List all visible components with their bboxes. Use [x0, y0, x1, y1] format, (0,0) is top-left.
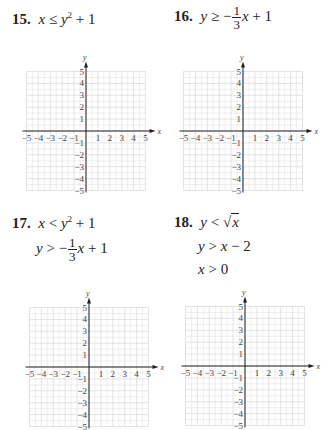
- x-tick-label: 1: [255, 368, 260, 378]
- y-arrow-icon: [243, 297, 247, 303]
- x-tick-label: −4: [193, 368, 203, 378]
- x-tick-label: 2: [267, 368, 272, 378]
- x-arrow-icon: [309, 364, 315, 368]
- y-tick-label: −4: [233, 409, 243, 419]
- y-tick-label: 4: [239, 313, 244, 323]
- x-tick-label: 5: [302, 368, 307, 378]
- y-tick-label: 3: [239, 325, 244, 335]
- y-tick-label: −5: [233, 421, 243, 430]
- x-tick-label: 3: [278, 368, 283, 378]
- coordinate-grid-18[interactable]: xy−5−4−3−2−11234554321−1−2−3−4−5: [0, 0, 331, 430]
- x-tick-label: −2: [216, 368, 226, 378]
- y-tick-label: −1: [233, 373, 243, 383]
- y-axis-label: y: [241, 288, 246, 297]
- y-tick-label: −3: [233, 397, 243, 407]
- y-tick-label: 5: [239, 302, 244, 312]
- y-tick-label: 1: [239, 349, 244, 359]
- y-tick-label: 2: [239, 337, 244, 347]
- x-tick-label: −3: [205, 368, 215, 378]
- x-tick-label: 4: [290, 368, 295, 378]
- x-axis-label: x: [316, 362, 321, 371]
- y-tick-label: −2: [233, 385, 243, 395]
- x-tick-label: −5: [181, 368, 191, 378]
